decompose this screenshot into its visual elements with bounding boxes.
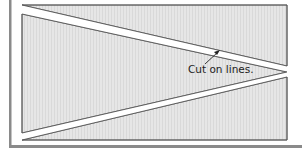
diagram-canvas: Cut on lines. <box>0 0 302 153</box>
left-border-bar <box>9 0 12 147</box>
bottom-border-bar <box>9 145 302 148</box>
cutting-diagram: Cut on lines. <box>0 0 302 153</box>
annotation-label: Cut on lines. <box>188 63 254 75</box>
